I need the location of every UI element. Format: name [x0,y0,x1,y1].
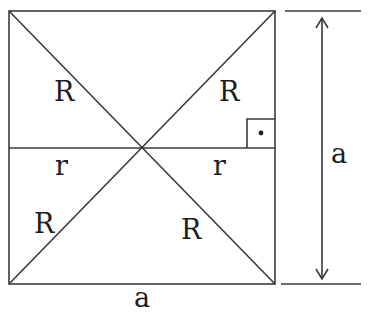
label-a-bottom: a [134,282,150,313]
square-diagram: R R R R r r a a [0,0,371,314]
label-R-bottom-left: R [34,208,55,239]
label-r-left: r [55,150,68,181]
label-a-right: a [331,138,347,169]
dimension-arrow-icon [316,18,328,279]
right-angle-marker-icon [247,119,275,148]
label-R-top-right: R [219,76,240,107]
label-r-right: r [213,150,226,181]
label-R-bottom-right: R [181,214,202,245]
label-R-top-left: R [54,76,75,107]
